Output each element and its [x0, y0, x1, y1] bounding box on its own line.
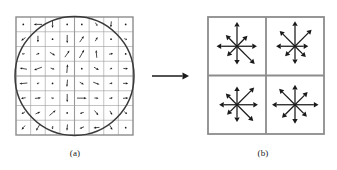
gradient-sample-dot	[22, 24, 24, 26]
gradient-sample-dot	[52, 38, 54, 40]
panel-a-image-gradients	[15, 17, 134, 136]
gradient-sample-dot	[125, 127, 127, 129]
gradient-sample-dot	[52, 83, 54, 85]
gradient-sample-dot	[66, 24, 68, 26]
gradient-sample-dot	[66, 112, 68, 114]
gradient-vector-shaft	[51, 68, 53, 69]
gradient-vector-shaft	[36, 54, 38, 55]
caption-panel-a: (a)	[0, 148, 150, 158]
gradient-sample-dot	[110, 38, 112, 40]
figure-canvas	[0, 0, 337, 170]
figure-background	[0, 0, 337, 170]
gradient-vector-shaft	[82, 112, 84, 113]
caption-panel-b: (b)	[195, 148, 331, 158]
gradient-sample-dot	[125, 24, 127, 26]
gradient-vector-shaft	[124, 39, 125, 40]
gradient-sample-dot	[125, 53, 127, 55]
figure-root: (a) (b)	[0, 0, 337, 170]
gradient-vector-shaft	[67, 67, 68, 73]
gradient-sample-dot	[81, 68, 83, 70]
gradient-sample-dot	[81, 24, 83, 26]
